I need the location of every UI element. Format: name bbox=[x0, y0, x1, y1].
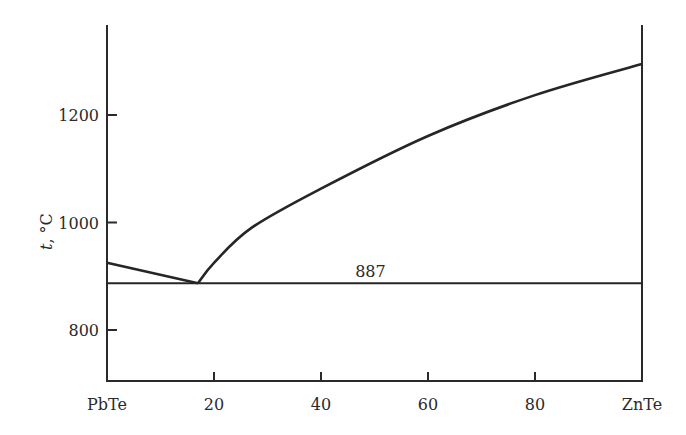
y-tick-label: 1200 bbox=[58, 106, 99, 125]
series-line-1 bbox=[198, 64, 642, 283]
x-axis-ticks: PbTe20406080ZnTe bbox=[87, 372, 662, 414]
phase-diagram: 80010001200 PbTe20406080ZnTe t, °C 887 bbox=[0, 0, 686, 435]
x-tick-label: 40 bbox=[311, 395, 331, 414]
plot-area bbox=[106, 25, 643, 381]
y-axis-ticks: 80010001200 bbox=[58, 106, 117, 340]
y-axis-title: t, °C bbox=[37, 213, 56, 250]
x-tick-label: 80 bbox=[525, 395, 545, 414]
y-tick-label: 1000 bbox=[58, 214, 99, 233]
x-tick-label: 60 bbox=[418, 395, 438, 414]
eutectic-temperature-label: 887 bbox=[355, 262, 386, 281]
x-tick-label: PbTe bbox=[87, 395, 127, 414]
x-tick-label: ZnTe bbox=[622, 395, 662, 414]
series-line-0 bbox=[107, 263, 198, 283]
x-tick-label: 20 bbox=[204, 395, 224, 414]
y-tick-label: 800 bbox=[68, 321, 99, 340]
